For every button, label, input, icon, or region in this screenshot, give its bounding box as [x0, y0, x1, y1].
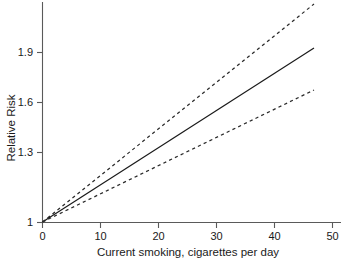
relative-risk-chart-figure: 1 1.3 1.6 1.9 0 10 20 30 40 50 Current s…	[0, 0, 350, 264]
y-tick-label-1-3: 1.3	[18, 146, 33, 158]
y-tick-label-1-9: 1.9	[18, 46, 33, 58]
x-tick-label-20: 20	[152, 230, 164, 242]
series-upper-confidence-limit	[43, 4, 315, 222]
chart-axes	[42, 2, 341, 223]
series-lower-confidence-limit	[43, 90, 315, 222]
x-axis-ticks	[43, 223, 333, 229]
y-axis-ticks	[37, 53, 43, 223]
x-tick-label-10: 10	[94, 230, 106, 242]
y-tick-label-1: 1	[27, 216, 33, 228]
x-tick-label-0: 0	[39, 230, 45, 242]
x-tick-label-30: 30	[210, 230, 222, 242]
y-tick-label-1-6: 1.6	[18, 96, 33, 108]
chart-canvas: 1 1.3 1.6 1.9 0 10 20 30 40 50 Current s…	[0, 0, 350, 264]
x-axis-title: Current smoking, cigarettes per day	[97, 246, 279, 258]
x-tick-label-50: 50	[326, 230, 338, 242]
series-relative-risk-estimate	[43, 48, 315, 222]
y-axis-title: Relative Risk	[5, 94, 17, 161]
x-tick-label-40: 40	[268, 230, 280, 242]
chart-series-group	[43, 4, 315, 222]
